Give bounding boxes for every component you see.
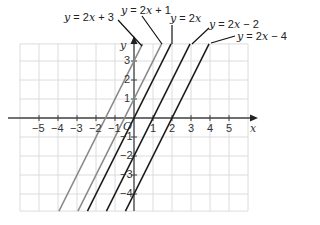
line-equation-label: y = 2x + 3 xyxy=(64,12,114,23)
origin-label: O xyxy=(123,121,132,132)
x-tick-label: 2 xyxy=(169,123,175,134)
x-tick-label: −2 xyxy=(89,123,102,134)
y-tick-label: 1 xyxy=(124,93,130,104)
x-tick-label: 4 xyxy=(207,123,213,134)
x-tick-label: −1 xyxy=(108,123,121,134)
x-axis-arrow-icon xyxy=(250,115,258,122)
line-equation-label: y = 2x − 2 xyxy=(209,19,259,30)
y-tick-label: −2 xyxy=(120,150,133,161)
series-line xyxy=(125,44,209,211)
leader-line xyxy=(211,36,235,43)
x-tick-label: 3 xyxy=(188,123,194,134)
y-axis-label: y xyxy=(120,40,126,51)
y-tick-label: 3 xyxy=(124,55,130,66)
y-tick-label: 2 xyxy=(124,74,130,85)
x-tick-label: −5 xyxy=(32,123,45,134)
leader-line xyxy=(142,16,162,44)
y-tick-label: −4 xyxy=(120,188,133,199)
x-axis-label: x xyxy=(250,123,256,134)
line-equation-label: y = 2x − 4 xyxy=(237,31,287,42)
x-tick-label: −4 xyxy=(51,123,64,134)
line-equation-label: y = 2x + 1 xyxy=(121,5,171,16)
line-equation-label: y = 2x xyxy=(170,13,201,24)
x-tick-label: 1 xyxy=(150,123,156,134)
x-tick-label: −3 xyxy=(70,123,83,134)
y-tick-label: −3 xyxy=(120,169,133,180)
leader-line xyxy=(192,28,209,44)
x-tick-label: 5 xyxy=(226,123,232,134)
